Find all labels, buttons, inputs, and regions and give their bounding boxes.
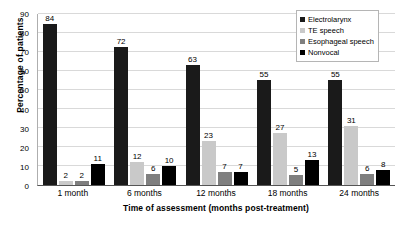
y-axis-tick-label: 90: [20, 10, 29, 19]
bar-chart: Percentage of patients 01020304050607080…: [0, 0, 406, 230]
legend-item[interactable]: TE speech: [300, 25, 374, 36]
bar-value-label: 5: [294, 165, 298, 174]
bar-value-label: 10: [165, 156, 174, 165]
legend-item[interactable]: Esophageal speech: [300, 36, 374, 47]
bar[interactable]: [305, 160, 319, 185]
bar-value-label: 55: [259, 70, 268, 79]
bar[interactable]: [114, 47, 128, 185]
y-axis-tick-label: 40: [20, 105, 29, 114]
bar-container: 55: [257, 14, 271, 185]
bar-container: 63: [186, 14, 200, 185]
bar[interactable]: [257, 80, 271, 185]
bar-value-label: 7: [222, 162, 226, 171]
bar-value-label: 2: [79, 171, 83, 180]
bar-container: 27: [273, 14, 287, 185]
bar[interactable]: [43, 24, 57, 185]
x-axis-tick-label: 12 months: [180, 188, 252, 198]
y-axis-tick-label: 50: [20, 86, 29, 95]
y-axis-tick-label: 60: [20, 67, 29, 76]
y-axis-tick-label: 80: [20, 29, 29, 38]
bar-value-label: 63: [188, 55, 197, 64]
bar-value-label: 27: [275, 123, 284, 132]
y-axis-tick-label: 20: [20, 143, 29, 152]
bar[interactable]: [202, 141, 216, 185]
bar-value-label: 84: [45, 14, 54, 23]
legend-item[interactable]: Electrolarynx: [300, 14, 374, 25]
legend-label: TE speech: [308, 26, 344, 35]
x-axis-tick-labels: 1 month6 months12 months18 months24 mont…: [37, 188, 395, 198]
bar-group: 842211: [38, 14, 109, 185]
bar[interactable]: [59, 181, 73, 185]
y-axis-tick-label: 0: [25, 182, 29, 191]
bar-container: 7: [234, 14, 248, 185]
bar-container: 84: [43, 14, 57, 185]
bar-value-label: 6: [365, 164, 369, 173]
bar-group: 632377: [181, 14, 252, 185]
legend-swatch-icon: [300, 28, 305, 33]
legend-swatch-icon: [300, 50, 305, 55]
bar-container: 72: [114, 14, 128, 185]
bar[interactable]: [91, 164, 105, 185]
bar-group: 7212610: [109, 14, 180, 185]
bar[interactable]: [130, 162, 144, 185]
legend-label: Nonvocal: [308, 48, 339, 57]
bar[interactable]: [360, 174, 374, 185]
bar[interactable]: [218, 172, 232, 185]
bar-container: 11: [91, 14, 105, 185]
legend-swatch-icon: [300, 39, 305, 44]
bar[interactable]: [376, 170, 390, 185]
y-axis-tick-label: 70: [20, 48, 29, 57]
bar-container: 10: [162, 14, 176, 185]
bar-value-label: 11: [94, 154, 102, 163]
bar-value-label: 23: [204, 131, 213, 140]
bar[interactable]: [162, 166, 176, 185]
bar-value-label: 2: [63, 171, 67, 180]
bar-container: 7: [218, 14, 232, 185]
bar-value-label: 12: [133, 152, 142, 161]
x-axis-tick-label: 18 months: [252, 188, 324, 198]
y-axis-tick-label: 30: [20, 124, 29, 133]
x-axis-title: Time of assessment (months post-treatmen…: [37, 203, 395, 213]
bar[interactable]: [328, 80, 342, 185]
bar-container: 12: [130, 14, 144, 185]
y-axis-tick-labels: 0102030405060708090: [0, 14, 33, 186]
y-axis-tick-label: 10: [20, 162, 29, 171]
x-axis-tick-label: 24 months: [323, 188, 395, 198]
bar-value-label: 55: [331, 70, 340, 79]
bar[interactable]: [234, 172, 248, 185]
legend-label: Esophageal speech: [308, 37, 374, 46]
bar-value-label: 13: [307, 150, 316, 159]
bar-container: 6: [146, 14, 160, 185]
bar[interactable]: [186, 65, 200, 185]
bar[interactable]: [344, 126, 358, 185]
bar[interactable]: [289, 175, 303, 185]
bar-container: 2: [59, 14, 73, 185]
x-axis-tick-label: 6 months: [109, 188, 181, 198]
legend: ElectrolarynxTE speechEsophageal speechN…: [296, 10, 379, 62]
legend-label: Electrolarynx: [308, 15, 351, 24]
bar-value-label: 8: [381, 160, 385, 169]
bar-value-label: 6: [151, 164, 155, 173]
bar-container: 2: [75, 14, 89, 185]
bar[interactable]: [146, 174, 160, 185]
bar-value-label: 7: [238, 162, 242, 171]
bar-container: 23: [202, 14, 216, 185]
bar[interactable]: [75, 181, 89, 185]
legend-item[interactable]: Nonvocal: [300, 47, 374, 58]
x-axis-tick-label: 1 month: [37, 188, 109, 198]
bar-value-label: 31: [347, 116, 356, 125]
legend-swatch-icon: [300, 17, 305, 22]
bar-value-label: 72: [117, 37, 126, 46]
bar[interactable]: [273, 133, 287, 185]
